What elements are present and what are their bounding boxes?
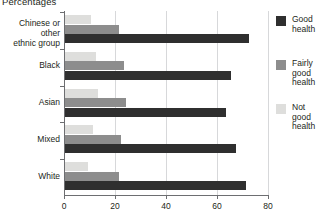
category-label: Asian: [0, 97, 60, 107]
bar-notgood: [65, 162, 88, 171]
category-label: Black: [0, 60, 60, 70]
legend-swatch-fairly-icon: [276, 60, 286, 70]
bar-good: [65, 144, 236, 153]
x-axis-tick-label: 0: [62, 201, 67, 211]
y-axis-tick: [60, 122, 64, 123]
x-axis-tick-label: 40: [161, 201, 170, 211]
y-axis-tick: [60, 86, 64, 87]
bar-notgood: [65, 52, 96, 61]
bar-fairly: [65, 172, 119, 181]
y-axis-tick: [60, 159, 64, 160]
x-axis-tick: [64, 195, 65, 199]
bar-good: [65, 108, 226, 117]
bar-good: [65, 181, 246, 190]
bar-good: [65, 34, 249, 43]
x-axis-tick-label: 20: [110, 201, 119, 211]
category-label: Mixed: [0, 134, 60, 144]
x-axis-tick: [166, 195, 167, 199]
y-axis-tick: [60, 12, 64, 13]
bar-notgood: [65, 15, 91, 24]
x-axis-tick: [115, 195, 116, 199]
bar-fairly: [65, 61, 124, 70]
legend-label: Not good health: [292, 103, 315, 132]
y-axis-tick: [60, 49, 64, 50]
bar-notgood: [65, 89, 98, 98]
legend-label: Good health: [292, 15, 315, 34]
legend-swatch-notgood-icon: [276, 104, 286, 114]
bar-good: [65, 71, 231, 80]
x-axis-tick-label: 60: [212, 201, 221, 211]
x-axis-tick: [268, 195, 269, 199]
bar-fairly: [65, 135, 121, 144]
legend-label: Fairly good health: [292, 59, 315, 88]
category-label: Chinese or other ethnic group: [0, 18, 60, 48]
chart-title: Percentages: [2, 0, 56, 7]
bar-notgood: [65, 125, 93, 134]
bar-fairly: [65, 25, 119, 34]
x-axis-tick-label: 80: [263, 201, 272, 211]
x-axis-tick: [217, 195, 218, 199]
gridline: [268, 11, 269, 195]
plot-area: 020406080Chinese or other ethnic groupBl…: [64, 11, 268, 195]
category-label: White: [0, 171, 60, 181]
bar-fairly: [65, 98, 126, 107]
chart-root: Percentages 020406080Chinese or other et…: [0, 0, 325, 219]
legend-swatch-good-icon: [276, 16, 286, 26]
